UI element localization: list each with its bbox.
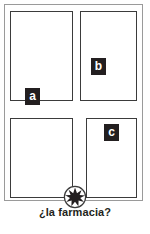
- location-marker-a[interactable]: a: [25, 88, 40, 105]
- street-map-figure: a b c ¿la farmacia?: [0, 0, 150, 234]
- city-block-northwest: [10, 11, 73, 101]
- starburst-icon: [63, 185, 87, 209]
- city-block-northeast: [80, 11, 137, 101]
- location-marker-b[interactable]: b: [91, 58, 106, 75]
- location-marker-c[interactable]: c: [104, 124, 119, 141]
